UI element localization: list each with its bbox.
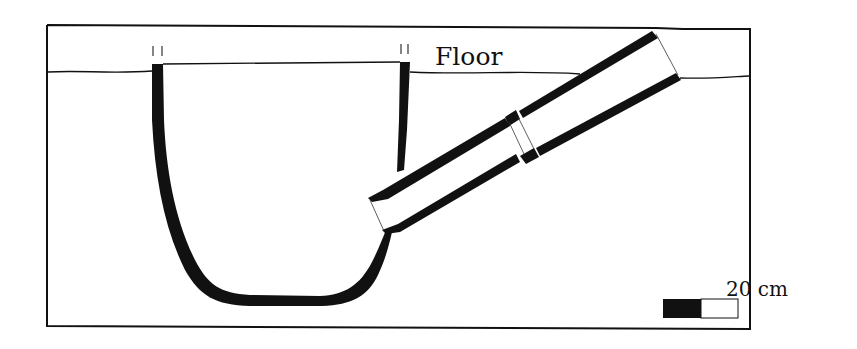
floor-line (163, 62, 400, 64)
floor-line (48, 71, 152, 72)
scale-label: 20 cm (726, 277, 788, 301)
pipe-lower-section (368, 118, 520, 234)
pipe-upper-section (519, 31, 681, 156)
floor-label: Floor (435, 42, 502, 71)
pit-vessel (397, 62, 410, 172)
rim-marks (153, 44, 408, 56)
pit-vessel (152, 64, 392, 306)
scale-bar (663, 299, 738, 318)
pipe-joint (505, 110, 539, 164)
floor-line (680, 76, 749, 78)
floor-line (410, 72, 580, 74)
